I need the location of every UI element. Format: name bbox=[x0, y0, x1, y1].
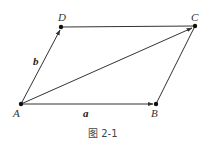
vector-b-label: b bbox=[33, 55, 39, 67]
point-a bbox=[19, 102, 23, 106]
point-b bbox=[154, 102, 158, 106]
label-c: C bbox=[191, 11, 199, 23]
parallelogram-diagram: D C A B b a 图 2-1 bbox=[0, 0, 211, 147]
label-a: A bbox=[12, 107, 20, 119]
label-d: D bbox=[57, 11, 66, 23]
point-c bbox=[193, 24, 197, 28]
segment-bc bbox=[156, 26, 195, 104]
label-b: B bbox=[151, 107, 158, 119]
vector-ac bbox=[21, 28, 192, 104]
figure-caption: 图 2-1 bbox=[88, 128, 118, 139]
point-d bbox=[59, 25, 63, 29]
segment-dc bbox=[61, 26, 195, 27]
vector-b bbox=[21, 30, 60, 104]
vector-a-label: a bbox=[83, 107, 89, 119]
